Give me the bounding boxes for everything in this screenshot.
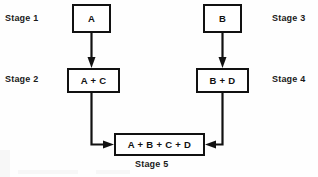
flowchart-canvas: A A + C B B + D A + B + C + D Stage 1 St… [0, 0, 318, 177]
node-b-label: B [219, 13, 226, 24]
node-a-plus-b-plus-c-plus-d[interactable]: A + B + C + D [114, 133, 205, 156]
stage-label-5: Stage 5 [135, 159, 168, 169]
edge-ac-to-abcd [92, 93, 115, 149]
scan-artifact [18, 170, 78, 174]
node-b-plus-d-label: B + D [209, 75, 235, 86]
edge-b-to-bd [219, 33, 227, 68]
edge-bd-to-abcd [205, 93, 223, 149]
stage-label-2: Stage 2 [5, 74, 38, 84]
node-b[interactable]: B [203, 4, 242, 33]
node-a-label: A [88, 13, 95, 24]
node-a-plus-c-label: A + C [81, 75, 107, 86]
node-a[interactable]: A [72, 4, 111, 33]
scan-artifact [0, 150, 10, 177]
node-a-plus-c[interactable]: A + C [67, 68, 120, 93]
stage-label-3: Stage 3 [272, 13, 305, 23]
stage-label-1: Stage 1 [5, 13, 38, 23]
node-a-plus-b-plus-c-plus-d-label: A + B + C + D [128, 139, 191, 150]
stage-label-4: Stage 4 [272, 74, 305, 84]
scan-artifact [96, 170, 130, 174]
edge-a-to-ac [88, 33, 96, 68]
node-b-plus-d[interactable]: B + D [196, 68, 249, 93]
